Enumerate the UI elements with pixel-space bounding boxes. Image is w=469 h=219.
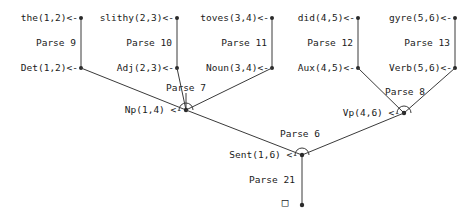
parse-label-7: Parse 7 [151, 82, 221, 93]
sentence-label: Sent(1,6) <- [204, 149, 298, 160]
node-dot-toves [270, 16, 274, 20]
terminal-box-icon: □ [278, 197, 292, 208]
phrase-label-vp: Vp(4,6) <- [318, 107, 400, 118]
pos-label-adj: Adj(2,3)<- [92, 62, 174, 73]
node-dot-did [356, 16, 360, 20]
parse-tree-diagram: the(1,2)<- slithy(2,3)<- toves(3,4)<- di… [0, 0, 469, 219]
pos-label-noun: Noun(3,4)<- [192, 62, 269, 73]
parse-label-8: Parse 8 [370, 86, 440, 97]
word-label-slithy: slithy(2,3)<- [92, 12, 174, 23]
node-dot-the [79, 16, 83, 20]
pos-label-aux: Aux(4,5)<- [288, 62, 355, 73]
word-label-gyre: gyre(5,6)<- [372, 12, 452, 23]
parse-label-9: Parse 9 [0, 37, 76, 48]
node-dot-slithy [175, 16, 179, 20]
word-label-did: did(4,5)<- [288, 12, 355, 23]
parse-label-21: Parse 21 [232, 174, 312, 185]
parse-label-6: Parse 6 [265, 128, 335, 139]
word-label-the: the(1,2)<- [0, 12, 78, 23]
pos-label-verb: Verb(5,6)<- [372, 62, 452, 73]
parse-label-11: Parse 11 [192, 37, 267, 48]
parse-label-13: Parse 13 [372, 37, 450, 48]
pos-label-det: Det(1,2)<- [0, 62, 78, 73]
phrase-label-np: Np(1,4) <- [100, 104, 182, 115]
node-dot-sent [300, 153, 304, 157]
word-label-toves: toves(3,4)<- [192, 12, 269, 23]
node-dot-gyre [453, 16, 457, 20]
node-dot-terminal [300, 203, 304, 207]
parse-label-12: Parse 12 [288, 37, 353, 48]
parse-label-10: Parse 10 [92, 37, 172, 48]
